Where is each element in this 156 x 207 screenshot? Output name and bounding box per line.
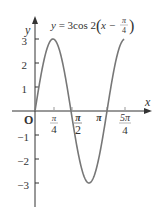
svg-text:): ) [129, 17, 134, 35]
sinusoid-chart: 3 2 1 −1 −2 −3 y x O π 4 π 2 π 5π 4 y = … [0, 0, 156, 207]
x-axis-label: x [144, 95, 151, 109]
x-tick-label-pi: π [96, 112, 102, 123]
x-ticks [54, 107, 125, 111]
x-tick-label-pi-4: π 4 [50, 113, 58, 135]
svg-text:y = 3cos 2: y = 3cos 2 [50, 19, 96, 31]
y-tick-label-1: 1 [22, 83, 28, 95]
svg-text:4: 4 [122, 124, 128, 136]
svg-text:2: 2 [75, 123, 81, 137]
x-tick-label-pi-2: π 2 [74, 112, 82, 137]
origin-label: O [24, 113, 33, 127]
svg-text:x −: x − [100, 19, 116, 31]
y-axis-arrow-icon [32, 16, 38, 24]
svg-text:4: 4 [122, 26, 126, 35]
svg-text:5π: 5π [120, 112, 131, 123]
svg-text:4: 4 [51, 123, 57, 135]
svg-text:π: π [75, 112, 81, 123]
y-tick-label-neg1: −1 [17, 131, 29, 143]
svg-text:π: π [96, 112, 102, 123]
equation-title: y = 3cos 2 ( x − π 4 ) [50, 16, 134, 35]
y-tick-label-2: 2 [22, 59, 28, 71]
svg-text:π: π [122, 16, 127, 25]
y-axis-label: y [24, 23, 31, 37]
x-tick-label-5pi-4: 5π 4 [119, 112, 131, 136]
y-tick-label-neg3: −3 [17, 179, 29, 191]
svg-text:π: π [52, 113, 57, 123]
y-tick-label-neg2: −2 [17, 155, 29, 167]
